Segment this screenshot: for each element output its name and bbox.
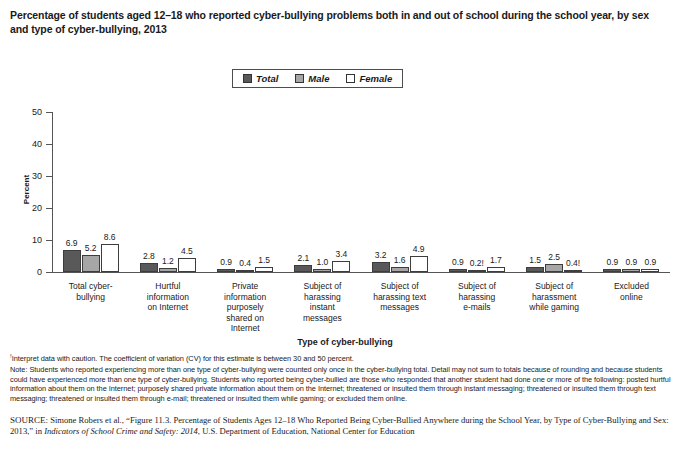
bar-male-4 xyxy=(391,267,409,272)
bar-value-label: 4.5 xyxy=(171,247,203,256)
y-tick-mark xyxy=(46,144,53,145)
y-tick-label: 40 xyxy=(14,140,42,149)
bar-male-3 xyxy=(313,269,331,272)
bar-total-2 xyxy=(217,269,235,272)
bar-total-6 xyxy=(526,267,544,272)
x-category-label: Subject ofharassmentwhile gaming xyxy=(515,281,593,313)
bar-female-0 xyxy=(101,244,119,272)
bar-female-4 xyxy=(410,256,428,272)
bar-total-7 xyxy=(603,269,621,272)
bar-female-3 xyxy=(332,261,350,272)
bar-value-label: 0.4! xyxy=(557,259,589,268)
bar-value-label: 3.4 xyxy=(325,250,357,259)
y-tick-mark xyxy=(46,208,53,209)
source-label: SOURCE: xyxy=(10,415,48,425)
bar-female-6 xyxy=(564,270,582,272)
y-tick-mark xyxy=(46,176,53,177)
bar-male-7 xyxy=(622,269,640,272)
y-tick-label: 10 xyxy=(14,236,42,245)
bar-female-2 xyxy=(255,267,273,272)
bar-value-label: 1.5 xyxy=(248,256,280,265)
bar-value-label: 8.6 xyxy=(94,233,126,242)
x-category-label: Subject ofharassinge-mails xyxy=(438,281,516,313)
bar-female-7 xyxy=(641,269,659,272)
bar-total-5 xyxy=(449,269,467,272)
y-tick-mark xyxy=(46,112,53,113)
x-category-label: Privateinformationpurposelyshared onInte… xyxy=(206,281,284,334)
y-tick-label: 0 xyxy=(14,268,42,277)
x-category-label: Subject ofharassinginstantmessages xyxy=(283,281,361,323)
bar-male-1 xyxy=(159,268,177,272)
footnote-caution-text: Interpret data with caution. The coeffic… xyxy=(12,354,354,363)
y-tick-label: 50 xyxy=(14,108,42,117)
source-note: SOURCE: Simone Robers et al., “Figure 11… xyxy=(10,415,674,437)
y-tick-mark xyxy=(46,272,53,273)
bar-male-2 xyxy=(236,270,254,272)
source-publication-title: Indicators of School Crime and Safety: 2… xyxy=(44,426,198,436)
x-category-label: Excludedonline xyxy=(592,281,670,302)
y-tick-label: 20 xyxy=(14,204,42,213)
bar-female-5 xyxy=(487,267,505,272)
source-text-part2: , U.S. Department of Education, National… xyxy=(198,426,415,436)
x-category-label: Total cyber-bullying xyxy=(52,281,130,302)
bar-male-0 xyxy=(82,255,100,272)
x-axis-line xyxy=(52,272,670,273)
bar-value-label: 0.9 xyxy=(634,258,666,267)
bar-value-label: 1.7 xyxy=(480,256,512,265)
x-category-label: Subject ofharassing textmessages xyxy=(361,281,439,313)
bar-female-1 xyxy=(178,258,196,272)
footnote-caution: !Interpret data with caution. The coeffi… xyxy=(10,352,674,364)
y-tick-mark xyxy=(46,240,53,241)
bar-male-5 xyxy=(468,270,486,272)
chart-notes: !Interpret data with caution. The coeffi… xyxy=(10,352,674,403)
bar-value-label: 4.9 xyxy=(403,245,435,254)
y-axis-line xyxy=(52,112,53,273)
note-text: Note: Students who reported experiencing… xyxy=(10,365,674,403)
x-category-label: Hurtfulinformationon Internet xyxy=(129,281,207,313)
bar-chart: Percent 01020304050 6.95.28.62.81.24.50.… xyxy=(0,0,682,340)
x-axis-title: Type of cyber-bullying xyxy=(260,337,430,347)
y-tick-label: 30 xyxy=(14,172,42,181)
